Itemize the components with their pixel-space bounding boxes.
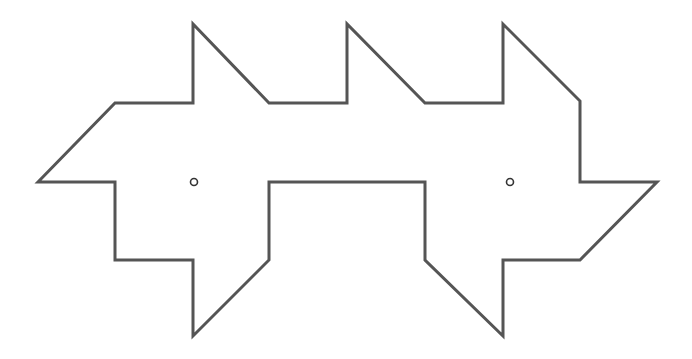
shape-outline [38, 24, 657, 336]
right-center-point [507, 179, 514, 186]
left-center-point [191, 179, 198, 186]
shape-diagram [0, 0, 692, 359]
